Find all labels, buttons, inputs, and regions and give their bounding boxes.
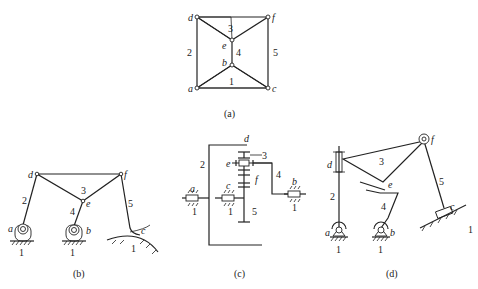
ground-hatch-b	[373, 237, 388, 241]
node-d	[195, 15, 199, 19]
label-f: f	[255, 174, 259, 185]
joint-e	[81, 199, 85, 203]
node-f	[266, 15, 270, 19]
bearing-e	[239, 160, 249, 166]
label-link-3: 3	[228, 23, 233, 34]
label-b: b	[292, 176, 297, 187]
label-e: e	[226, 158, 231, 169]
label-ground-1c: 1	[468, 224, 473, 235]
label-b: b	[390, 227, 395, 238]
label-link-3: 3	[81, 185, 86, 196]
label-link-5: 5	[439, 176, 444, 187]
subfigure-a: d f e b a c 2 3 4 5 1 (a)	[187, 12, 278, 120]
link-3	[37, 174, 121, 201]
label-f: f	[272, 12, 276, 23]
label-ground-1b: 1	[70, 247, 75, 258]
label-d: d	[28, 169, 34, 180]
label-b: b	[86, 225, 91, 236]
label-d: d	[244, 133, 250, 144]
joint-f	[119, 172, 123, 176]
label-link-4: 4	[236, 47, 241, 58]
label-c: c	[450, 201, 455, 212]
label-link-4: 4	[70, 206, 75, 217]
pivot-f-inner	[422, 137, 426, 141]
label-b: b	[222, 57, 227, 68]
subfigure-c: d 3 e f 4 2 a c b 5 1 1 1 (c)	[182, 133, 306, 280]
label-link-2: 2	[330, 191, 335, 202]
joint-d	[35, 172, 39, 176]
label-link-2: 2	[22, 195, 27, 206]
label-d: d	[327, 159, 333, 170]
node-e	[230, 38, 234, 42]
label-ground-1a: 1	[19, 247, 24, 258]
pivot-a-inner	[21, 227, 26, 232]
figure-canvas: d f e b a c 2 3 4 5 1 (a) d	[0, 0, 478, 289]
subfigure-b: d f e a b c 2 3 4 5 1 1 1 (b)	[8, 169, 158, 280]
caption-b: (b)	[73, 268, 85, 280]
node-a	[195, 86, 199, 90]
label-link-5: 5	[252, 206, 257, 217]
link-5	[424, 141, 444, 208]
node-c	[266, 86, 270, 90]
label-ground-1c: 1	[131, 243, 136, 254]
label-e: e	[388, 179, 393, 190]
label-link-1: 1	[229, 76, 234, 87]
label-ground-1a: 1	[192, 206, 197, 217]
label-a: a	[8, 223, 13, 234]
label-a: a	[188, 83, 193, 94]
ground-hatch-a	[331, 237, 346, 241]
label-ground-1b: 1	[378, 244, 383, 255]
label-link-3: 3	[379, 156, 384, 167]
pivot-a	[336, 227, 342, 233]
label-link-4: 4	[276, 169, 281, 180]
label-link-5: 5	[128, 198, 133, 209]
label-f: f	[431, 134, 435, 145]
caption-d: (d)	[386, 268, 398, 280]
ground-hatch-a	[12, 241, 31, 245]
label-ground-1b: 1	[292, 202, 297, 213]
node-b	[230, 63, 234, 67]
label-c: c	[226, 180, 231, 191]
label-ground-1a: 1	[336, 244, 341, 255]
label-link-5: 5	[273, 47, 278, 58]
ground-hatch-b	[64, 241, 83, 245]
caption-c: (c)	[234, 268, 245, 280]
guide-e	[360, 182, 385, 190]
label-e: e	[86, 198, 91, 209]
caption-a: (a)	[224, 108, 235, 120]
link-4	[253, 163, 288, 194]
label-a: a	[190, 183, 195, 194]
label-link-3: 3	[262, 150, 267, 161]
label-link-2: 2	[187, 47, 192, 58]
label-a: a	[325, 227, 330, 238]
label-link-4: 4	[381, 201, 386, 212]
label-c: c	[272, 83, 277, 94]
bearing-c	[222, 195, 234, 201]
pivot-b-inner	[72, 228, 77, 233]
pivot-b	[378, 227, 384, 233]
label-c: c	[141, 225, 146, 236]
label-e: e	[222, 40, 227, 51]
follower-tip	[130, 225, 150, 232]
label-ground-1c: 1	[228, 206, 233, 217]
bearing-b	[288, 191, 300, 197]
guide-e2	[366, 190, 380, 193]
ground-c	[420, 205, 466, 228]
bearing-a	[186, 195, 198, 201]
label-link-2: 2	[200, 159, 205, 170]
subfigure-d: d f e a b c 2 3 4 5 1 1 1 (d)	[325, 134, 473, 280]
label-f: f	[124, 169, 128, 180]
link-4	[74, 201, 83, 226]
label-d: d	[188, 12, 194, 23]
